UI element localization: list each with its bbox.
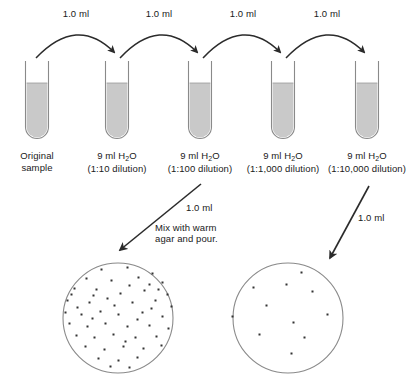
- serial-dilution-diagram: 1.0 ml 1.0 ml 1.0 ml 1.0 ml Original sam…: [0, 0, 420, 387]
- transfer-label-3: 1.0 ml: [213, 8, 273, 20]
- tube-label-original-line1: Original: [20, 150, 54, 162]
- tube-label-original: Original sample: [20, 150, 54, 173]
- mix-instruction-line1: Mix with warm: [155, 222, 216, 234]
- plating-arrow-group: [120, 184, 369, 258]
- plating-volume-label-right: 1.0 ml: [358, 212, 384, 224]
- petri-dish-sparse: [232, 263, 344, 373]
- tube-label-dilution-10000-line2: (1:10,000 dilution): [328, 163, 406, 175]
- plating-volume-label-left: 1.0 ml: [186, 202, 212, 214]
- test-tube-dilution-1000: [272, 61, 295, 139]
- transfer-label-2: 1.0 ml: [129, 8, 189, 20]
- tube-label-dilution-10000: 9 ml H2O (1:10,000 dilution): [328, 150, 406, 174]
- transfer-label-1: 1.0 ml: [46, 8, 106, 20]
- transfer-arrow-2: [120, 35, 197, 58]
- test-tube-original: [26, 61, 49, 139]
- tube-label-dilution-100-line2: (1:100 dilution): [168, 163, 232, 175]
- transfer-arrow-3: [203, 35, 280, 58]
- subscript-2: 2: [125, 155, 129, 162]
- petri-dish-dense: [63, 263, 173, 373]
- tube-label-dilution-10000-line1: 9 ml H2O: [328, 150, 406, 163]
- tube-label-dilution-100: 9 ml H2O (1:100 dilution): [168, 150, 232, 174]
- tube-label-dilution-1000: 9 ml H2O (1:1,000 dilution): [247, 150, 320, 174]
- test-tube-dilution-10000: [356, 61, 379, 139]
- subscript-2: 2: [291, 155, 295, 162]
- tube-label-dilution-1000-line1: 9 ml H2O: [247, 150, 320, 163]
- tube-label-dilution-10: 9 ml H2O (1:10 dilution): [87, 150, 146, 174]
- tube-label-dilution-10-line2: (1:10 dilution): [87, 163, 146, 175]
- tube-label-dilution-10-line1: 9 ml H2O: [87, 150, 146, 163]
- subscript-2: 2: [375, 155, 379, 162]
- transfer-label-4: 1.0 ml: [297, 8, 357, 20]
- tube-label-dilution-100-line1: 9 ml H2O: [168, 150, 232, 163]
- diagram-canvas: [0, 0, 420, 387]
- test-tube-dilution-10: [106, 61, 129, 139]
- transfer-arrow-1: [36, 35, 114, 58]
- tube-label-dilution-1000-line2: (1:1,000 dilution): [247, 163, 320, 175]
- transfer-arrow-group: [36, 35, 364, 58]
- mix-instruction-line2: agar and pour.: [155, 233, 218, 245]
- tube-label-original-line2: sample: [20, 162, 54, 174]
- transfer-arrow-4: [286, 35, 364, 58]
- subscript-2: 2: [208, 155, 212, 162]
- test-tube-dilution-100: [189, 61, 212, 139]
- test-tube-group: [26, 61, 379, 139]
